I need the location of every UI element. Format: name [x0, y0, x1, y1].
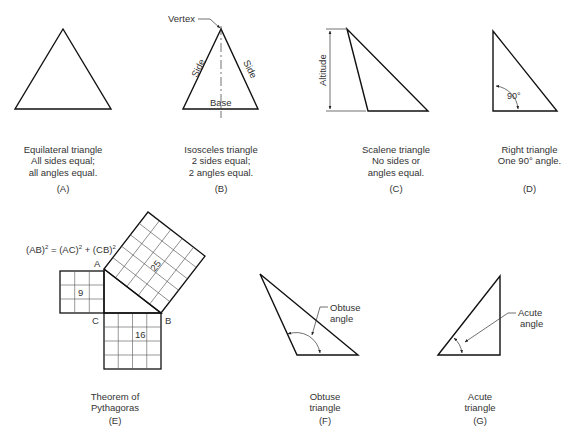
panel-label-a: (A): [0, 183, 126, 194]
side-right-label: Side: [241, 58, 259, 80]
square-ac-value: 9: [78, 287, 83, 298]
acute-triangle: Acute angle: [438, 276, 543, 355]
vertex-leader: [198, 19, 220, 28]
pythagoras-figure: 9 16 25 A C B (AB)2 = (AC)2 + (CB)2: [26, 212, 205, 369]
obtuse-triangle: Obtuse angle: [260, 274, 361, 355]
obtuse-leader: [312, 307, 328, 335]
caption-d: Right triangleOne 90° angle.: [490, 132, 569, 178]
caption-b: Isosceles triangle2 sides equal;2 angles…: [160, 132, 282, 190]
pythagoras-formula: (AB)2 = (AC)2 + (CB)2: [26, 244, 116, 255]
acute-leader: [465, 313, 516, 342]
right-triangle: 90°: [493, 31, 557, 111]
panel-label-c: (C): [345, 183, 447, 194]
formula-ab: (AB): [26, 244, 45, 255]
panel-label-d: (D): [490, 183, 569, 194]
square-cb: [104, 313, 161, 369]
side-left-label: Side: [189, 57, 207, 79]
acute-angle-label-2: angle: [520, 318, 543, 329]
angle-90-label: 90°: [507, 91, 521, 101]
square-cb-value: 16: [135, 329, 146, 340]
point-a-label: A: [94, 258, 101, 269]
triangle-diagram: Vertex Side Side Base Altitude 90°: [0, 0, 569, 443]
altitude-label: Altitude: [317, 54, 328, 86]
formula-eq: = (AC): [48, 244, 78, 255]
scalene-triangle: Altitude: [317, 29, 428, 111]
caption-c: Scalene triangleNo sides orangles equal.: [345, 132, 447, 190]
acute-angle-label-1: Acute: [518, 307, 542, 318]
vertex-label: Vertex: [168, 13, 195, 24]
acute-angle-arc: [454, 338, 462, 353]
panel-label-f: (F): [275, 415, 375, 426]
isosceles-triangle: Vertex Side Side Base: [168, 13, 259, 118]
square-ab-value: 25: [148, 258, 163, 273]
obtuse-angle-arc: [288, 333, 320, 353]
panel-label-b: (B): [160, 183, 282, 194]
obtuse-angle-label-1: Obtuse: [330, 302, 361, 313]
point-c-label: C: [92, 315, 99, 326]
caption-a: Equilateral triangleAll sides equal;all …: [0, 132, 126, 190]
formula-sup-3: 2: [112, 244, 116, 250]
panel-label-e: (E): [60, 415, 170, 426]
base-label: Base: [210, 97, 232, 108]
equilateral-triangle: [15, 29, 111, 109]
point-b-label: B: [165, 315, 171, 326]
panel-label-g: (G): [430, 415, 530, 426]
formula-plus: + (CB): [82, 244, 112, 255]
obtuse-angle-label-2: angle: [330, 313, 353, 324]
